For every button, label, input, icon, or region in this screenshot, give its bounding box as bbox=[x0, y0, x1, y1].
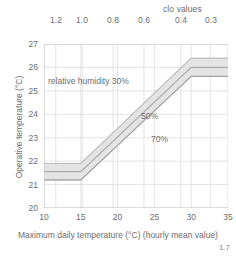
annotation-rh-70: 70% bbox=[151, 134, 168, 144]
figure-number: 1.7 bbox=[219, 243, 230, 252]
x-tick-label-35: 35 bbox=[223, 212, 232, 222]
x-tick-label-10: 10 bbox=[39, 212, 48, 222]
top-tick-label-4: 0.4 bbox=[175, 15, 187, 25]
top-tick-label-3: 0.6 bbox=[138, 15, 150, 25]
figure-container: clo values 1.2 1.0 0.8 0.6 0.4 0.3 27 26… bbox=[0, 0, 236, 256]
annotation-rh-50: 50% bbox=[141, 111, 158, 121]
chart-svg bbox=[44, 44, 228, 208]
y-tick-label-27: 27 bbox=[16, 39, 38, 49]
x-tick-label-15: 15 bbox=[76, 212, 85, 222]
annotation-rh-30: relative humidity 30% bbox=[48, 76, 129, 86]
x-axis-title: Maximum daily temperature (°C) (hourly m… bbox=[0, 230, 236, 240]
top-tick-label-5: 0.3 bbox=[205, 15, 217, 25]
x-tick-label-30: 30 bbox=[186, 212, 195, 222]
x-tick-label-20: 20 bbox=[113, 212, 122, 222]
top-tick-label-2: 0.8 bbox=[107, 15, 119, 25]
top-tick-label-0: 1.2 bbox=[50, 15, 62, 25]
plot-area: relative humidity 30% 50% 70% bbox=[44, 44, 228, 208]
x-tick-label-25: 25 bbox=[150, 212, 159, 222]
top-tick-label-1: 1.0 bbox=[76, 15, 88, 25]
y-axis-title: Operative temperature (°C) bbox=[14, 52, 24, 202]
y-tick-label-20: 20 bbox=[16, 203, 38, 213]
clo-values-axis-title: clo values bbox=[163, 4, 202, 14]
